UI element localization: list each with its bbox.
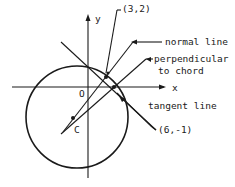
point-3-2-leader <box>106 10 117 73</box>
circle <box>26 66 128 168</box>
y-axis-label: y <box>95 13 101 24</box>
point-3-2-label: (3,2) <box>122 3 151 14</box>
perpendicular-label-1: perpendicular <box>154 53 229 64</box>
center-label: C <box>74 124 80 135</box>
x-axis-label: x <box>172 82 178 93</box>
normal-line-label: normal line <box>165 36 228 47</box>
circle-tangent-diagram: y x O C (3,2) normal line perpendicular … <box>0 0 235 187</box>
point-6-neg1 <box>112 85 116 89</box>
origin-label: O <box>79 88 85 99</box>
perpendicular-line <box>61 59 146 134</box>
perpendicular-label-2: to chord <box>158 65 204 76</box>
normal-mark <box>107 72 110 75</box>
y-axis <box>86 14 91 178</box>
point-3-2 <box>104 75 108 79</box>
point-6-neg1-label: (6,-1) <box>158 124 192 135</box>
center-point <box>71 116 75 120</box>
tangent-line-label: tangent line <box>148 100 217 111</box>
